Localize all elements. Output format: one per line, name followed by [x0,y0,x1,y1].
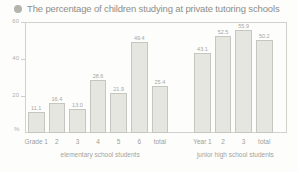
bar-value-label: 25.4 [150,79,171,85]
bar-value-label: 28.6 [88,73,109,79]
bar-value-label: 50.2 [254,33,275,39]
page-title: The percentage of children studying at p… [27,3,279,14]
bar-value-label: 43.1 [192,46,213,52]
chart-title-row: The percentage of children studying at p… [14,3,294,14]
x-axis-group-label: junior high school students [194,151,276,158]
bar [256,40,273,133]
bar-value-label: 16.4 [47,96,68,102]
bar [90,80,107,133]
bar [28,112,45,133]
bullet-dot-icon [14,5,22,13]
bar [69,109,86,133]
bar-value-label: 52.5 [213,29,234,35]
bar [49,103,66,133]
y-axis-unit: % [14,126,19,132]
bar [131,42,148,133]
x-axis-tick-label: total [145,138,176,145]
bar [235,30,252,133]
bar-value-label: 21.9 [108,86,129,92]
x-axis-tick-label: total [249,138,280,145]
bar-value-label: 55.9 [233,23,254,29]
bar-value-label: 11.1 [26,105,47,111]
y-axis-tick-label: 60 [3,18,19,24]
y-axis-tick-label: 40 [3,55,19,61]
bar-value-label: 13.0 [67,102,88,108]
bar [194,53,211,133]
x-axis-group-label: elementary school students [28,151,172,158]
bar [215,36,232,133]
bar [110,93,127,134]
bars-layer: 11.116.413.028.621.949.425.443.152.555.9… [25,22,287,133]
bar-value-label: 49.4 [129,35,150,41]
y-axis-tick-label: 20 [3,92,19,98]
bar [152,86,169,133]
